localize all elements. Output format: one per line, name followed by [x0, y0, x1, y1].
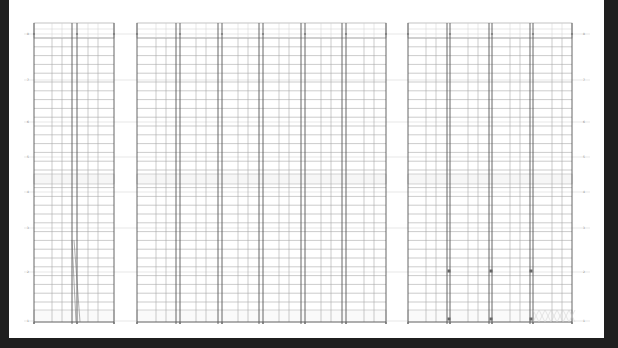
- axis-tick: [571, 33, 573, 35]
- axis-tick: [491, 322, 493, 324]
- axis-tick: [449, 33, 451, 35]
- axis-tick: [407, 33, 409, 35]
- axis-tick: [262, 33, 264, 35]
- axis-tick: [136, 322, 138, 324]
- node-marker: [490, 318, 493, 321]
- mid-band: [408, 174, 572, 184]
- axis-tick: [76, 322, 78, 324]
- axis-tick: [407, 322, 409, 324]
- elevation-drawing: 8877665544332211: [0, 0, 618, 348]
- level-label: 2: [583, 270, 585, 274]
- axis-tick: [136, 33, 138, 35]
- level-label: 6: [27, 120, 29, 124]
- level-label: 2: [27, 270, 29, 274]
- level-label: 3: [583, 226, 585, 230]
- level-label: 7: [27, 78, 29, 82]
- node-marker: [530, 270, 533, 273]
- level-label: 3: [27, 226, 29, 230]
- axis-tick: [113, 322, 115, 324]
- axis-tick: [532, 33, 534, 35]
- header-band: [408, 23, 572, 38]
- base-band: [137, 310, 386, 322]
- axis-tick: [449, 322, 451, 324]
- mid-band: [137, 174, 386, 184]
- axis-tick: [221, 322, 223, 324]
- axis-tick: [304, 322, 306, 324]
- level-label: 6: [583, 120, 585, 124]
- panel-left: [33, 23, 115, 324]
- axis-tick: [221, 33, 223, 35]
- level-label: 1: [583, 319, 585, 323]
- axis-tick: [76, 33, 78, 35]
- axis-tick: [113, 33, 115, 35]
- axis-tick: [33, 322, 35, 324]
- axis-tick: [304, 33, 306, 35]
- axis-tick: [345, 33, 347, 35]
- level-label: 5: [583, 155, 585, 159]
- axis-tick: [532, 322, 534, 324]
- level-label: 5: [27, 155, 29, 159]
- axis-tick: [262, 322, 264, 324]
- level-label: 7: [583, 78, 585, 82]
- diagonal-brace: [72, 240, 76, 322]
- axis-tick: [491, 33, 493, 35]
- node-marker: [448, 270, 451, 273]
- axis-tick: [179, 33, 181, 35]
- level-label: 8: [583, 32, 585, 36]
- level-label: 4: [27, 190, 29, 194]
- panel-middle: [136, 23, 387, 324]
- level-label: 8: [27, 32, 29, 36]
- level-label: 1: [27, 319, 29, 323]
- axis-tick: [385, 322, 387, 324]
- axis-tick: [33, 33, 35, 35]
- header-band: [34, 23, 114, 38]
- panel-right: [407, 23, 575, 324]
- mid-band: [34, 174, 114, 184]
- header-band: [137, 23, 386, 38]
- axis-tick: [385, 33, 387, 35]
- axis-tick: [345, 322, 347, 324]
- node-marker: [530, 318, 533, 321]
- node-marker: [448, 318, 451, 321]
- base-band: [34, 310, 114, 322]
- level-label: 4: [583, 190, 585, 194]
- axis-tick: [179, 322, 181, 324]
- axis-tick: [571, 322, 573, 324]
- node-marker: [490, 270, 493, 273]
